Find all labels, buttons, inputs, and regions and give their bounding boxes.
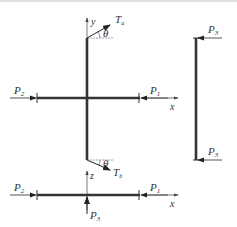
p3-label-side-bottom: P3 [207, 145, 219, 159]
theta-label-top: θ [103, 27, 109, 39]
x-axis-label-top: x [169, 101, 175, 112]
p3-label-side-top: P3 [207, 23, 219, 37]
ta-label: Ta [115, 13, 124, 26]
z-axis-label: z [89, 170, 94, 181]
p3-label-bottom: P3 [89, 209, 101, 223]
p2-label-bottom: P2 [13, 181, 25, 195]
theta-label-bottom: θ [103, 157, 109, 169]
x-axis-label-bottom: x [169, 198, 175, 209]
mechanics-diagram: y x P2 P1 Ta θ Tb θ P3 [0, 0, 237, 227]
side-view: P3 P3 [193, 23, 222, 160]
theta-arc-top [98, 32, 100, 38]
bottom-view: z x P2 P1 P3 [10, 170, 178, 223]
p2-label-top: P2 [13, 84, 25, 98]
p1-label-bottom: P1 [149, 181, 160, 195]
p1-label-top: P1 [149, 84, 160, 98]
top-view: y x P2 P1 Ta θ Tb θ [10, 13, 178, 179]
y-axis-label: y [90, 16, 96, 27]
tb-label: Tb [113, 166, 122, 179]
theta-arc-bottom [99, 160, 100, 165]
